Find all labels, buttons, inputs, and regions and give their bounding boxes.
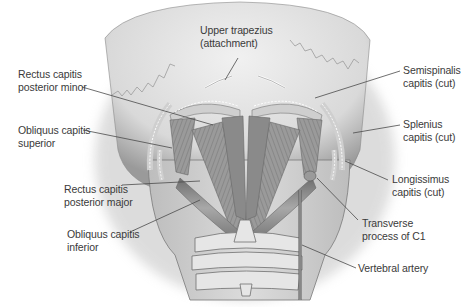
label-rectus-capitis-posterior-major: Rectus capitis posterior major (64, 183, 133, 208)
label-transverse-process-c1: Transverse process of C1 (362, 217, 425, 242)
label-upper-trapezius: Upper trapezius (attachment) (200, 24, 273, 49)
label-rectus-capitis-posterior-minor: Rectus capitis posterior minor (18, 68, 87, 93)
label-semispinalis-capitis: Semispinalis capitis (cut) (403, 64, 461, 89)
label-obliquus-capitis-superior: Obliquus capitis superior (18, 124, 91, 149)
anatomy-diagram: Upper trapezius (attachment) Rectus capi… (0, 0, 464, 307)
label-vertebral-artery: Vertebral artery (358, 262, 428, 275)
label-longissimus-capitis: Longissimus capitis (cut) (392, 173, 449, 198)
label-obliquus-capitis-inferior: Obliquus capitis inferior (67, 228, 140, 253)
label-splenius-capitis: Splenius capitis (cut) (403, 118, 455, 143)
